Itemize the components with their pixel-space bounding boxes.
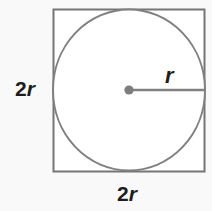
label-bottom-variable: r — [129, 182, 137, 205]
label-radius-r: r — [165, 65, 174, 87]
center-point-dot — [124, 85, 133, 94]
label-radius-variable: r — [165, 63, 174, 88]
label-bottom-side-2r: 2r — [117, 183, 137, 204]
label-left-coefficient: 2 — [15, 77, 27, 100]
label-bottom-coefficient: 2 — [117, 182, 129, 205]
geometry-figure: 2r 2r r — [0, 0, 212, 211]
label-left-side-2r: 2r — [15, 78, 35, 99]
label-left-variable: r — [27, 77, 35, 100]
geometry-diagram — [0, 0, 212, 211]
